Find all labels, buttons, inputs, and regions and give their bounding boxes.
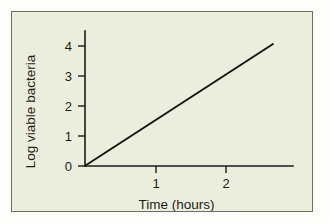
x-axis-title: Time (hours) <box>12 197 313 212</box>
y-tick-label-1: 1 <box>56 130 72 143</box>
y-tick-label-3: 3 <box>56 70 72 83</box>
data-series-line <box>86 44 274 166</box>
y-tick-label-4: 4 <box>56 40 72 53</box>
y-tick-label-2: 2 <box>56 100 72 113</box>
figure-root: 4 3 2 1 0 1 2 Time (hours) Log viable ba… <box>0 0 329 223</box>
figure-frame: 4 3 2 1 0 1 2 Time (hours) Log viable ba… <box>11 11 313 212</box>
x-tick-label-1: 1 <box>148 177 164 190</box>
y-tick-label-0: 0 <box>56 160 72 173</box>
x-tick-label-2: 2 <box>218 177 234 190</box>
y-axis-title: Log viable bacteria <box>23 46 38 178</box>
